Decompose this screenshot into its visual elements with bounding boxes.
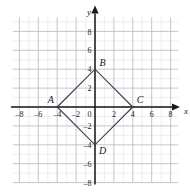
y-tick-2: 2: [88, 84, 92, 93]
vertex-label-c: C: [137, 94, 144, 105]
y-tick-8: 8: [88, 28, 92, 37]
x-tick--8: –8: [14, 110, 23, 119]
origin-label: 0: [88, 110, 92, 119]
x-tick-8: 8: [169, 110, 173, 119]
figure-canvas: –8–6–4–22468 8642–2–4–6–8 0 x y ABCD: [0, 0, 190, 192]
axes-group: [11, 5, 180, 184]
x-tick--4: –4: [52, 110, 61, 119]
x-axis-tick-labels: –8–6–4–22468: [14, 110, 172, 119]
x-tick--2: –2: [71, 110, 80, 119]
y-tick--4: –4: [83, 141, 92, 150]
x-tick-4: 4: [131, 110, 135, 119]
y-tick-4: 4: [88, 65, 92, 74]
y-tick--8: –8: [83, 179, 92, 188]
x-tick-6: 6: [150, 110, 154, 119]
y-axis-label: y: [86, 7, 91, 17]
y-tick--6: –6: [83, 160, 92, 169]
vertex-label-a: A: [47, 94, 55, 105]
x-tick--6: –6: [33, 110, 42, 119]
x-axis-label: x: [183, 106, 188, 116]
y-tick-6: 6: [88, 46, 92, 55]
x-tick-2: 2: [112, 110, 116, 119]
vertex-label-b: B: [100, 57, 106, 68]
y-tick--2: –2: [83, 122, 92, 131]
vertex-label-d: D: [98, 145, 107, 156]
coordinate-plane-svg: –8–6–4–22468 8642–2–4–6–8 0 x y ABCD: [0, 0, 190, 192]
